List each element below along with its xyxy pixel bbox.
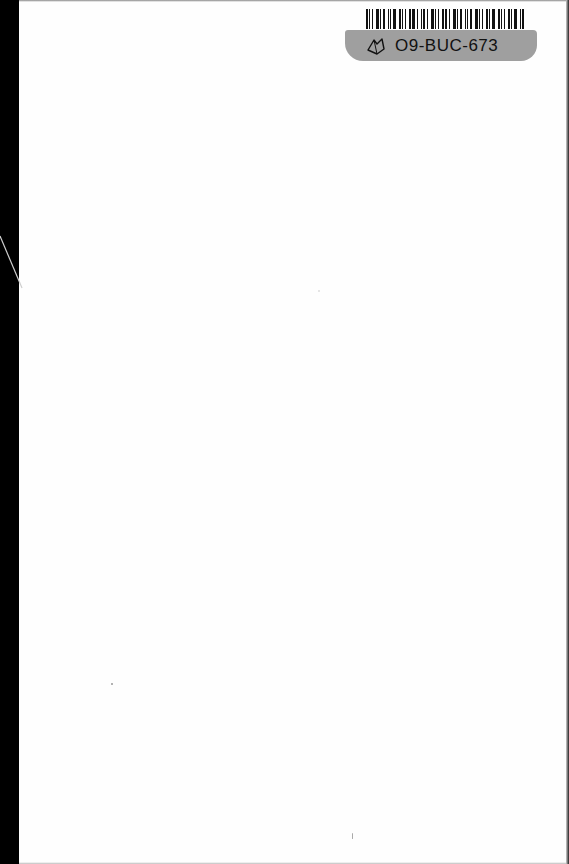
- scan-scratch-mark: [0, 232, 26, 292]
- scan-speck: [352, 833, 353, 839]
- barcode: [366, 9, 526, 29]
- barcode-code: O9-BUC-673: [395, 36, 498, 56]
- blank-page: [19, 2, 566, 862]
- scan-speck: [111, 683, 113, 685]
- barcode-sticker: O9-BUC-673: [344, 4, 537, 60]
- scan-speck: [318, 290, 320, 292]
- scan-top-edge: [19, 0, 566, 2]
- barcode-label-band: O9-BUC-673: [345, 30, 537, 61]
- scan-left-edge: [0, 0, 19, 864]
- library-book-icon: [365, 36, 387, 56]
